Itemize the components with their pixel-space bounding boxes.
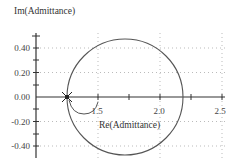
axes [36, 33, 225, 158]
x-tick-label: 2.5 [214, 106, 226, 116]
x-tick-label: 1.5 [91, 106, 103, 116]
y-tick-label: -0.40 [11, 141, 30, 151]
x-tick-label: 2.0 [153, 106, 165, 116]
y-tick-label: 0.40 [14, 43, 30, 53]
y-tick-label: 0.20 [14, 68, 30, 78]
y-axis-title: Im(Admittance) [14, 6, 75, 17]
admittance-chart: Im(Admittance) Re(Admittance) 0.40 0.20 … [0, 0, 235, 168]
x-axis-title: Re(Admittance) [99, 120, 160, 131]
y-tick-label: 0.00 [14, 92, 30, 102]
y-tick-label: -0.20 [11, 117, 30, 127]
